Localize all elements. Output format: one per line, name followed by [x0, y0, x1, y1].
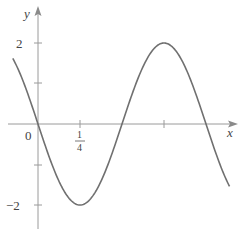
x-axis-label: x [226, 125, 233, 140]
y-tick-label-2: 2 [16, 36, 23, 51]
y-tick-label-neg2: −2 [6, 198, 20, 213]
x-tick-label-denominator: 4 [77, 142, 82, 153]
origin-label: 0 [25, 128, 32, 143]
x-tick-label-numerator: 1 [77, 129, 82, 140]
y-axis-label: y [22, 6, 30, 21]
sine-chart: y x 2 −2 0 1 4 [0, 0, 242, 231]
